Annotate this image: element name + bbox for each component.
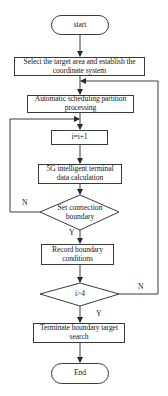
decision-label: Set connection boundary	[50, 204, 110, 221]
step-label: i=i+1	[71, 133, 87, 142]
step-terminate-search: Terminate boundary target search	[33, 323, 125, 343]
start-terminal: start	[51, 15, 109, 35]
end-terminal: End	[51, 363, 109, 384]
decision-label: i>4	[75, 290, 85, 299]
step-label: 5G intelligent terminal data calculation	[40, 165, 120, 182]
yes-label: Y	[69, 229, 74, 237]
decision-set-connection-boundary: Set connection boundary	[50, 203, 110, 222]
step-automatic-scheduling: Automatic scheduling partition processin…	[27, 95, 134, 113]
no-label: N	[138, 283, 143, 291]
step-increment-i: i=i+1	[51, 130, 108, 145]
end-label: End	[74, 369, 86, 378]
step-label: Select the target area and establish the…	[16, 58, 143, 75]
decision-i-greater-than-4: i>4	[60, 289, 100, 299]
step-select-target-area: Select the target area and establish the…	[14, 57, 145, 76]
start-label: start	[74, 21, 87, 30]
no-label: N	[22, 199, 27, 207]
step-5g-data-calculation: 5G intelligent terminal data calculation	[38, 164, 122, 184]
flowchart: start Select the target area and establi…	[0, 0, 168, 396]
step-label: Automatic scheduling partition processin…	[29, 95, 132, 112]
step-label: Record boundary conditions	[43, 246, 112, 263]
step-record-boundary-conditions: Record boundary conditions	[41, 244, 114, 265]
step-label: Terminate boundary target search	[35, 324, 123, 341]
yes-label: Y	[96, 310, 101, 318]
